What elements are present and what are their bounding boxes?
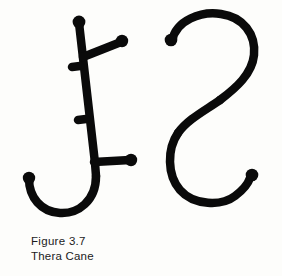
- caption-thera-cane: Figure 3.7 Thera Cane: [31, 234, 94, 263]
- cane-top-ball: [73, 16, 86, 29]
- figure-page: Figure 3.7 Thera Cane Figure 3.8 Back: [0, 0, 282, 276]
- cane-lower-arm-ball: [125, 154, 137, 166]
- backnobber-middle-bar: [178, 100, 220, 133]
- cane-shaft: [79, 23, 96, 176]
- figure-panel-thera-cane: Figure 3.7 Thera Cane: [0, 0, 146, 276]
- cane-lower-arm: [94, 160, 130, 162]
- cane-knob-upper-left: [72, 66, 80, 67]
- caption-thera-cane-number: Figure 3.7: [31, 234, 94, 249]
- backnobber-top-ball: [165, 34, 178, 47]
- thera-cane-illustration: [0, 0, 146, 230]
- cane-hook-tip-ball: [23, 172, 35, 184]
- caption-thera-cane-title: Thera Cane: [31, 249, 94, 264]
- backnobber-illustration: [146, 0, 282, 230]
- cane-upper-arm-ball: [116, 35, 128, 47]
- backnobber-bottom-ball: [246, 169, 259, 182]
- cane-upper-arm: [83, 42, 121, 57]
- cane-bottom-hook: [29, 176, 96, 213]
- figure-panel-backnobber: Figure 3.8 Backnobber: [146, 0, 282, 276]
- backnobber-upper-hook: [172, 13, 254, 100]
- cane-knob-lower-left: [78, 119, 86, 120]
- backnobber-lower-hook: [170, 133, 250, 203]
